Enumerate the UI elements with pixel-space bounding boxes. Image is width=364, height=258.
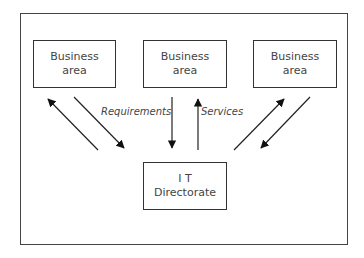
- arrows-layer: [0, 0, 364, 258]
- arrow-left-to-it: [74, 97, 124, 148]
- arrow-it-to-left: [48, 99, 98, 150]
- arrow-right-to-it: [261, 97, 310, 148]
- requirements-label: Requirements: [101, 106, 171, 117]
- services-label: Services: [201, 106, 243, 117]
